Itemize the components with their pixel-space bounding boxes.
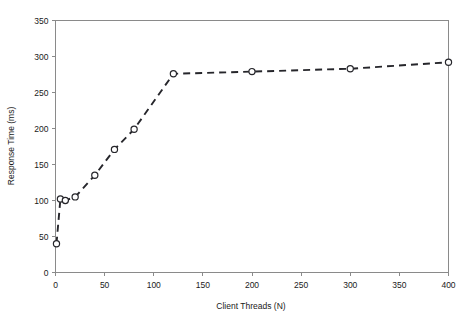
y-tick-label: 150 (34, 160, 48, 170)
x-tick-label: 150 (196, 280, 210, 290)
x-tick-label: 200 (245, 280, 259, 290)
chart-container: 050100150200250300350400 050100150200250… (0, 0, 462, 319)
data-point (53, 241, 59, 247)
data-point (72, 194, 78, 200)
y-tick-label: 50 (39, 232, 49, 242)
x-tick-label: 300 (343, 280, 357, 290)
data-point (62, 197, 68, 203)
x-tick-label: 100 (147, 280, 161, 290)
y-tick-label: 250 (34, 88, 48, 98)
x-tick-label: 0 (53, 280, 58, 290)
y-tick-label: 200 (34, 124, 48, 134)
x-axis-tick-labels: 050100150200250300350400 (53, 280, 456, 290)
y-axis-title: Response Time (ms) (6, 107, 16, 186)
x-tick-label: 50 (100, 280, 110, 290)
data-point (445, 59, 451, 65)
x-tick-label: 350 (392, 280, 406, 290)
data-point (347, 66, 353, 72)
data-point (131, 126, 137, 132)
data-point-markers (53, 59, 451, 247)
y-axis-tick-labels: 050100150200250300350 (34, 16, 48, 278)
x-tick-label: 250 (294, 280, 308, 290)
y-tick-label: 350 (34, 16, 48, 26)
data-point (249, 69, 255, 75)
response-time-line-chart: 050100150200250300350400 050100150200250… (0, 0, 462, 319)
x-axis-title: Client Threads (N) (216, 301, 285, 311)
x-tick-label: 400 (441, 280, 455, 290)
y-tick-label: 100 (34, 196, 48, 206)
data-point (92, 172, 98, 178)
y-tick-label: 0 (44, 268, 49, 278)
data-point (111, 146, 117, 152)
y-tick-label: 300 (34, 52, 48, 62)
data-point (170, 71, 176, 77)
